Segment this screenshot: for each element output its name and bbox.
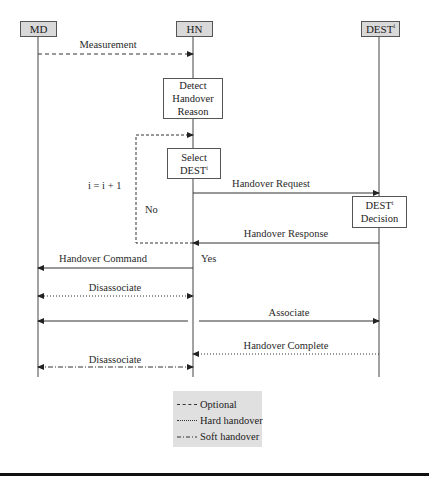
lifeline-header-md: MD [20,21,57,37]
legend-item-soft-handover: Soft handover [173,431,259,442]
msg-measurement-label: Measurement [79,40,136,51]
lifeline-header-dest: DESTi [361,21,400,37]
msg-handover-response-label: Handover Response [244,229,328,240]
legend-item-hard-handover: Hard handover [173,415,263,426]
legend-optional-label: Optional [200,399,237,410]
detect-line-3: Reason [178,105,209,118]
decision-line-2: Decision [361,212,398,225]
activity-select-dest: Select DESTi [167,148,221,179]
dest-superscript: i [393,23,395,29]
legend-dashed-line-icon [177,404,197,405]
activity-detect-handover-reason: Detect Handover Reason [163,78,223,119]
legend-soft-handover-label: Soft handover [200,431,259,442]
select-line-2-text: DEST [180,165,206,176]
loop-no-label: No [145,205,158,216]
msg-disassociate-soft-label: Disassociate [89,355,142,366]
decision-line-1: DESTi [366,199,394,212]
legend: Optional Hard handover Soft handover [173,391,262,447]
detect-line-2: Handover [172,92,213,105]
select-line-1: Select [181,151,207,164]
lifeline-header-md-label: MD [30,23,48,35]
lifeline-header-hn-label: HN [187,23,203,35]
select-line-2: DESTi [180,164,208,177]
lifeline-header-dest-label: DEST [366,23,394,35]
bottom-divider [0,473,429,476]
msg-handover-complete-label: Handover Complete [244,341,329,352]
loop-counter-label: i = i + 1 [88,181,121,192]
msg-disassociate-hard-label: Disassociate [89,283,142,294]
msg-handover-command-label: Handover Command [59,254,147,265]
msg-handover-request-label: Handover Request [232,179,310,190]
loop-yes-label: Yes [201,254,216,265]
detect-line-1: Detect [179,79,206,92]
legend-dash-dot-line-icon [177,435,197,439]
activity-dest-decision: DESTi Decision [352,196,407,228]
lifeline-header-hn: HN [176,21,213,37]
legend-item-optional: Optional [173,399,237,410]
legend-hard-handover-label: Hard handover [200,415,263,426]
select-superscript: i [206,164,208,170]
msg-associate-label: Associate [269,308,310,319]
decision-superscript: i [392,200,394,206]
decision-line-1-text: DEST [366,200,392,211]
legend-dotted-line-icon [177,420,197,421]
